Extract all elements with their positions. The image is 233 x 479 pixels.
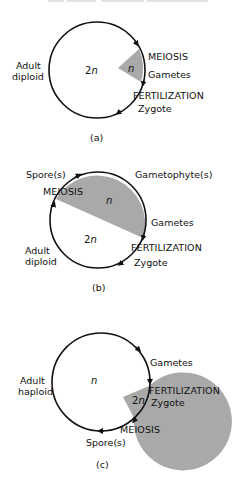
- haploid-label: n: [128, 63, 134, 74]
- meiosis-label: MEIOSIS: [43, 186, 83, 197]
- adult-label-line1: Adult: [25, 245, 50, 256]
- gametes-label: Gametes: [148, 69, 191, 80]
- life-cycle-diagrams: Adult diploid 2n n MEIOSIS Gametes FERTI…: [0, 0, 233, 479]
- fertilization-label: FERTILIZATION: [131, 242, 202, 253]
- gametes-label: Gametes: [151, 217, 194, 228]
- fertilization-label: FERTILIZATION: [133, 90, 204, 101]
- spores-label: Spore(s): [26, 169, 66, 180]
- diploid-label: 2n: [132, 395, 145, 406]
- adult-label-line2: diploid: [25, 256, 57, 267]
- adult-label-line1: Adult: [16, 60, 41, 71]
- gametophytes-label: Gametophyte(s): [135, 169, 212, 180]
- meiosis-label: MEIOSIS: [120, 424, 160, 435]
- caption-a: (a): [90, 132, 103, 143]
- adult-label-line1: Adult: [20, 375, 45, 386]
- caption-b: (b): [92, 282, 105, 293]
- caption-c: (c): [96, 459, 109, 470]
- adult-label-line2: haploid: [18, 386, 53, 397]
- panel-c: Gametes Adult haploid n FERTILIZATION 2n…: [18, 333, 232, 470]
- adult-label-line2: diploid: [12, 71, 44, 82]
- gametes-label: Gametes: [150, 357, 193, 368]
- spores-label: Spore(s): [86, 437, 126, 448]
- panel-b: Spore(s) MEIOSIS Gametophyte(s) n Gamete…: [25, 169, 212, 293]
- haploid-label: n: [91, 375, 97, 386]
- zygote-label: Zygote: [138, 103, 172, 114]
- diploid-label: 2n: [85, 65, 98, 76]
- haploid-label: n: [106, 195, 112, 206]
- panel-a: Adult diploid 2n n MEIOSIS Gametes FERTI…: [12, 22, 204, 143]
- life-cycle-circle-c: [52, 333, 150, 431]
- meiosis-label: MEIOSIS: [148, 51, 188, 62]
- diploid-label: 2n: [84, 234, 97, 245]
- zygote-label: Zygote: [134, 257, 168, 268]
- zygote-label: Zygote: [151, 397, 185, 408]
- fertilization-label: FERTILIZATION: [149, 385, 220, 396]
- arrow-icon: [135, 41, 137, 44]
